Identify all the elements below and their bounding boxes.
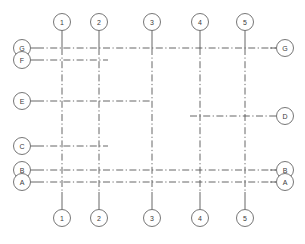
bubble-circle	[144, 210, 161, 227]
bubble-circle	[14, 52, 31, 69]
row-bubble-left-F[interactable]: F	[14, 52, 31, 69]
row-bubble-right-A[interactable]: A	[277, 174, 294, 191]
grid-bubbles-group: 1122334455GGFEDCBBAA	[14, 14, 294, 227]
bubble-circle	[237, 14, 254, 31]
column-bubble-top-2[interactable]: 2	[91, 14, 108, 31]
bubble-circle	[277, 174, 294, 191]
column-bubble-top-3[interactable]: 3	[144, 14, 161, 31]
row-bubble-left-C[interactable]: C	[14, 138, 31, 155]
bubble-circle	[91, 210, 108, 227]
row-bubble-left-A[interactable]: A	[14, 174, 31, 191]
bubble-circle	[192, 14, 209, 31]
bubble-circle	[14, 174, 31, 191]
column-gridlines-group	[62, 31, 245, 210]
column-bubble-top-4[interactable]: 4	[192, 14, 209, 31]
grid-canvas: 1122334455GGFEDCBBAA	[0, 0, 305, 244]
bubble-circle	[54, 210, 71, 227]
bubble-circle	[192, 210, 209, 227]
column-bubble-bottom-4[interactable]: 4	[192, 210, 209, 227]
bubble-circle	[91, 14, 108, 31]
row-bubble-right-D[interactable]: D	[277, 108, 294, 125]
bubble-circle	[144, 14, 161, 31]
column-bubble-bottom-1[interactable]: 1	[54, 210, 71, 227]
bubble-circle	[277, 108, 294, 125]
row-bubble-left-E[interactable]: E	[14, 93, 31, 110]
column-bubble-top-1[interactable]: 1	[54, 14, 71, 31]
bubble-circle	[277, 40, 294, 57]
bubble-circle	[54, 14, 71, 31]
row-gridlines-group	[31, 48, 277, 182]
bubble-circle	[237, 210, 254, 227]
column-bubble-bottom-3[interactable]: 3	[144, 210, 161, 227]
row-bubble-right-G[interactable]: G	[277, 40, 294, 57]
bubble-circle	[14, 138, 31, 155]
column-bubble-bottom-2[interactable]: 2	[91, 210, 108, 227]
bubble-circle	[14, 93, 31, 110]
column-bubble-bottom-5[interactable]: 5	[237, 210, 254, 227]
column-bubble-top-5[interactable]: 5	[237, 14, 254, 31]
column-grid-drawing: 1122334455GGFEDCBBAA	[0, 0, 305, 244]
